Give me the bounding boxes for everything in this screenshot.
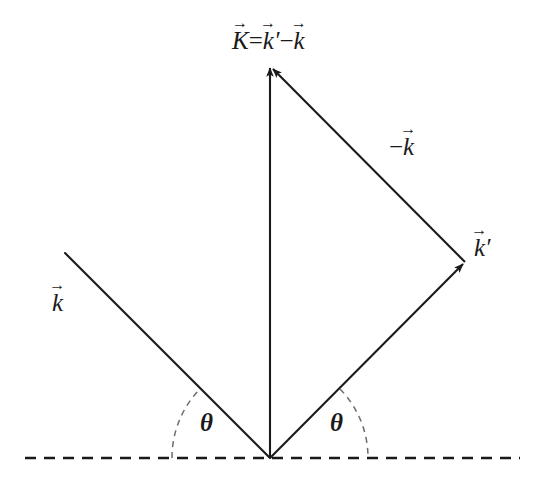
incident-wavevector-line — [65, 253, 270, 458]
vector-k-prime-symbol: →k — [263, 28, 274, 53]
minus-glyph: − — [389, 133, 403, 160]
k-glyph: k — [293, 27, 304, 54]
vector-k-prime-symbol: →k — [474, 235, 485, 260]
minus-glyph: − — [279, 27, 293, 54]
angle-arc-left — [172, 389, 200, 458]
vector-arrow-accent: → — [471, 222, 487, 238]
vector-arrow-accent: → — [232, 15, 248, 31]
vector-arrow-accent: → — [49, 277, 65, 293]
scattered-wavevector-arrow — [270, 264, 463, 458]
diagram-canvas — [0, 0, 542, 488]
negative-incident-label: −→k — [389, 134, 414, 159]
scattering-vector-label: →K=→k′−→k — [232, 28, 305, 53]
k-glyph: k — [263, 27, 274, 54]
angle-label-right: θ — [330, 409, 343, 437]
negative-incident-vector-arrow — [273, 69, 465, 262]
vector-k-symbol: →k — [293, 28, 304, 53]
vector-arrow-accent: → — [400, 121, 416, 137]
k-glyph: k — [52, 289, 63, 316]
vector-K-symbol: →K — [232, 28, 249, 53]
scattering-vector-diagram: →K=→k′−→k −→k →k′ →k θ θ — [0, 0, 542, 488]
scattered-wavevector-label: →k′ — [474, 235, 491, 260]
vector-arrow-accent: → — [291, 15, 307, 31]
k-glyph: k — [474, 234, 485, 261]
K-glyph: K — [232, 27, 249, 54]
vector-arrow-accent: → — [260, 15, 276, 31]
prime-glyph: ′ — [485, 234, 490, 261]
k-glyph: k — [403, 133, 414, 160]
angle-label-left: θ — [200, 409, 213, 437]
vector-k-symbol: →k — [403, 134, 414, 159]
equals-glyph: = — [249, 27, 263, 54]
incident-wavevector-label: →k — [52, 290, 63, 315]
angle-arc-right — [340, 389, 368, 458]
vector-k-symbol: →k — [52, 290, 63, 315]
